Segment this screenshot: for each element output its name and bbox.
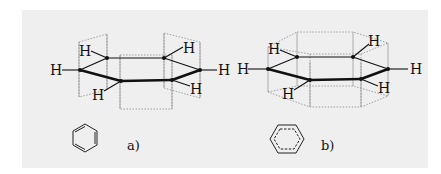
hydrogen-label: H	[92, 87, 104, 103]
carbon-atoms-a	[78, 56, 202, 83]
caption-a: a)	[127, 138, 140, 153]
benzene-kekule-icon	[73, 124, 97, 152]
hydrogen-label: H	[410, 61, 422, 77]
hydrogen-label: H	[237, 61, 249, 77]
hydrogen-label: H	[282, 86, 294, 102]
hydrogen-label: H	[79, 43, 91, 59]
benzene-diagram: H H H H H H a)	[0, 0, 441, 174]
hydrogen-label: H	[268, 41, 280, 57]
caption-b: b)	[321, 138, 334, 153]
hydrogen-label: H	[378, 80, 390, 96]
panel-a: H H H H H H a)	[50, 33, 230, 153]
hydrogen-label: H	[190, 81, 202, 97]
benzene-delocalized-icon	[270, 125, 304, 153]
hydrogen-label: H	[50, 62, 62, 78]
ring-bonds-a	[80, 58, 200, 81]
panel-b: H H H H H H b)	[237, 32, 422, 153]
carbon-atoms-b	[266, 55, 390, 82]
hydrogen-label: H	[368, 33, 380, 49]
ring-bonds-b	[268, 57, 388, 80]
hydrogen-label: H	[218, 62, 230, 78]
hydrogen-label: H	[183, 40, 195, 56]
